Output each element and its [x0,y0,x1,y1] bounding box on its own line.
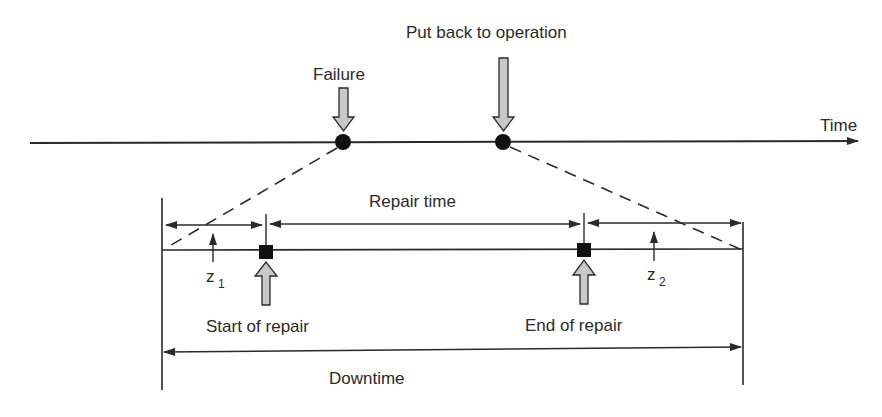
end-repair-arrow-icon [573,260,595,304]
start-repair-marker [259,245,273,259]
downtime-diagram: Time Failure Put back to operation Repai… [0,0,882,417]
end-repair-label: End of repair [525,316,623,335]
failure-arrow-icon [333,88,354,131]
time-axis-label: Time [820,116,857,135]
z2-subscript: 2 [659,275,666,289]
repair-baseline [162,249,743,250]
downtime-label: Downtime [329,369,405,388]
repair-time-label: Repair time [369,192,456,211]
failure-point [335,134,351,150]
failure-label: Failure [313,65,365,84]
zoom-line-left [166,148,337,248]
put-back-point [495,134,511,150]
z1-label: z [206,267,215,286]
zoom-line-right [510,147,742,250]
time-axis [30,141,858,143]
start-repair-arrow-icon [255,262,277,305]
end-repair-marker [577,243,591,257]
put-back-label: Put back to operation [406,23,567,42]
z2-label: z [647,265,656,284]
start-repair-label: Start of repair [206,317,309,336]
z1-subscript: 1 [218,277,225,291]
downtime-dimension [164,347,741,352]
put-back-arrow-icon [493,58,514,131]
